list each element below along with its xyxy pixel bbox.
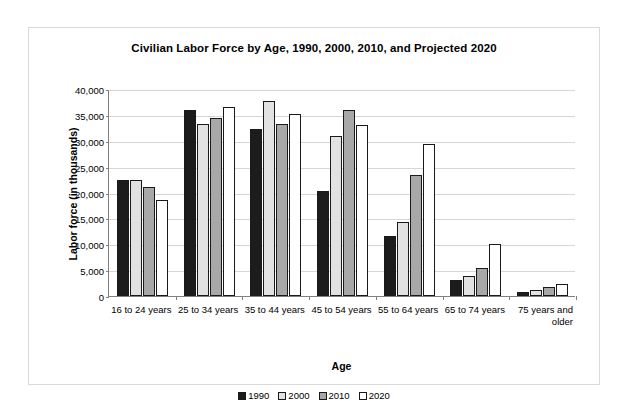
bar-2000-16-to-24-years[interactable] — [130, 180, 142, 296]
bar-1990-45-to-54-years[interactable] — [317, 191, 329, 296]
bar-group — [309, 90, 376, 296]
legend-swatch-icon — [278, 392, 286, 400]
y-axis-tick-label: 5,000 — [80, 266, 104, 277]
bar-1990-35-to-44-years[interactable] — [250, 129, 262, 296]
bar-2020-16-to-24-years[interactable] — [156, 200, 168, 296]
bar-group — [176, 90, 243, 296]
legend-label: 2020 — [369, 390, 390, 401]
bar-2020-45-to-54-years[interactable] — [356, 125, 368, 296]
y-axis-tick-label: 25,000 — [75, 162, 104, 173]
bar-1990-55-to-64-years[interactable] — [384, 236, 396, 296]
bar-2010-55-to-64-years[interactable] — [410, 175, 422, 296]
bar-group — [443, 90, 510, 296]
bar-2010-35-to-44-years[interactable] — [276, 124, 288, 296]
y-axis-tick-label: 40,000 — [75, 85, 104, 96]
x-axis-tick-mark — [309, 296, 310, 300]
bar-2000-65-to-74-years[interactable] — [463, 276, 475, 296]
bar-2020-35-to-44-years[interactable] — [289, 114, 301, 296]
bar-2000-75-years-and-older[interactable] — [530, 290, 542, 296]
bar-group — [376, 90, 443, 296]
bar-1990-65-to-74-years[interactable] — [450, 280, 462, 296]
x-axis-tick-mark — [176, 296, 177, 300]
x-axis-tick-mark — [443, 296, 444, 300]
bar-group — [242, 90, 309, 296]
legend-label: 1990 — [248, 390, 269, 401]
legend-swatch-icon — [359, 392, 367, 400]
y-axis-tick-label: 0 — [99, 292, 104, 303]
bar-group — [509, 90, 576, 296]
x-axis-tick-label: 65 to 74 years — [438, 304, 513, 316]
bar-2020-55-to-64-years[interactable] — [423, 144, 435, 296]
legend-item-2010[interactable]: 2010 — [319, 390, 350, 401]
x-axis-tick-mark — [376, 296, 377, 300]
y-axis-tick-label: 20,000 — [75, 188, 104, 199]
x-axis-tick-label: 75 years and older — [504, 304, 573, 327]
x-axis-tick-mark — [242, 296, 243, 300]
bar-2010-65-to-74-years[interactable] — [476, 268, 488, 296]
bar-2010-25-to-34-years[interactable] — [210, 118, 222, 296]
bar-2010-45-to-54-years[interactable] — [343, 110, 355, 296]
x-axis-tick-label: 25 to 34 years — [171, 304, 246, 316]
legend-swatch-icon — [238, 392, 246, 400]
bar-1990-75-years-and-older[interactable] — [517, 292, 529, 296]
plot-area: 40,00035,00030,00025,00020,00015,00010,0… — [108, 90, 575, 297]
bar-2020-25-to-34-years[interactable] — [223, 107, 235, 296]
x-axis-tick-label: 45 to 54 years — [304, 304, 379, 316]
bar-2020-75-years-and-older[interactable] — [556, 284, 568, 296]
bar-2000-25-to-34-years[interactable] — [197, 124, 209, 296]
bar-2000-45-to-54-years[interactable] — [330, 136, 342, 296]
bar-2000-55-to-64-years[interactable] — [397, 222, 409, 296]
x-axis-tick-label: 35 to 44 years — [237, 304, 312, 316]
chart-frame: Civilian Labor Force by Age, 1990, 2000,… — [28, 27, 600, 385]
x-axis-tick-mark — [509, 296, 510, 300]
x-axis-tick-label: 16 to 24 years — [104, 304, 179, 316]
y-axis-tick-label: 15,000 — [75, 214, 104, 225]
bar-2020-65-to-74-years[interactable] — [489, 244, 501, 296]
bar-1990-16-to-24-years[interactable] — [117, 180, 129, 296]
chart-title: Civilian Labor Force by Age, 1990, 2000,… — [29, 42, 599, 54]
x-axis-tick-mark — [576, 296, 577, 300]
legend-item-2000[interactable]: 2000 — [278, 390, 309, 401]
chart-legend: 1990200020102020 — [29, 390, 599, 401]
legend-item-1990[interactable]: 1990 — [238, 390, 269, 401]
bar-2010-16-to-24-years[interactable] — [143, 187, 155, 296]
y-axis-tick-mark — [106, 297, 109, 298]
legend-swatch-icon — [319, 392, 327, 400]
y-axis-tick-label: 10,000 — [75, 240, 104, 251]
x-axis-tick-label: 55 to 64 years — [371, 304, 446, 316]
legend-label: 2000 — [288, 390, 309, 401]
bar-group — [109, 90, 176, 296]
x-axis-title: Age — [108, 360, 575, 372]
legend-item-2020[interactable]: 2020 — [359, 390, 390, 401]
bar-2000-35-to-44-years[interactable] — [263, 101, 275, 296]
bar-1990-25-to-34-years[interactable] — [184, 110, 196, 296]
y-axis-tick-label: 30,000 — [75, 136, 104, 147]
bar-2010-75-years-and-older[interactable] — [543, 287, 555, 296]
y-axis-tick-label: 35,000 — [75, 110, 104, 121]
legend-label: 2010 — [329, 390, 350, 401]
